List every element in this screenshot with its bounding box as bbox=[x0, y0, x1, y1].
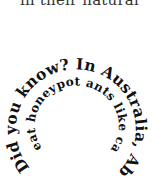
spiral-text-graphic: Did you know? In Australia, Aboriginals … bbox=[0, 0, 163, 180]
spiral-outer-textpath: Did you know? In Australia, Aboriginals bbox=[0, 0, 151, 180]
spiral-outer-text: Did you know? In Australia, Aboriginals bbox=[0, 0, 151, 180]
page: in their natural Did you know? In Austra… bbox=[0, 0, 163, 180]
